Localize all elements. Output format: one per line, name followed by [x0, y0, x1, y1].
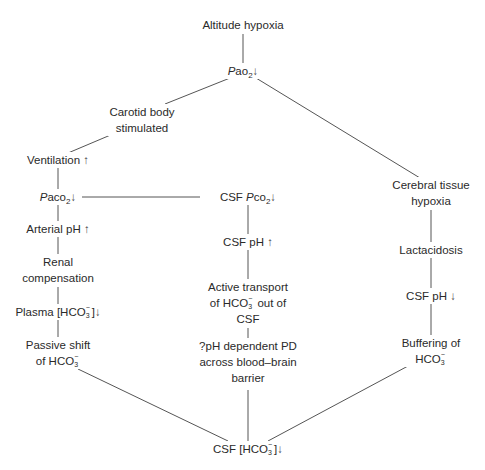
node-renal-compensation: Renal compensation [20, 254, 96, 286]
label: Arterial pH [26, 223, 80, 235]
node-cerebral-tissue-hypoxia: Cerebral tissue hypoxia [390, 177, 471, 209]
node-ph-dependent-pd: ?pH dependent PD across blood–brain barr… [197, 338, 299, 386]
ion-notation: −3 [86, 308, 92, 318]
ion-notation: −3 [74, 357, 80, 367]
down-arrow-icon: ↓ [277, 443, 283, 455]
label-line2: of HCO−3 [26, 353, 91, 369]
label: Altitude hypoxia [202, 19, 283, 31]
node-carotid-body: Carotid body stimulated [107, 104, 176, 136]
up-arrow-icon: ↑ [84, 223, 90, 235]
label-line3: barrier [199, 370, 297, 386]
down-arrow-icon: ↓ [253, 65, 259, 77]
charge: − [248, 295, 252, 303]
down-arrow-icon: ↓ [450, 290, 456, 302]
label-line1: Carotid body [109, 104, 174, 120]
label-prefix: P [246, 191, 254, 203]
node-pao2: Pao2↓ [226, 63, 261, 79]
label-main: ao [235, 65, 248, 77]
label-part: Plasma [HCO [15, 306, 85, 318]
charge: − [441, 351, 445, 359]
label-part: of HCO [36, 355, 74, 367]
node-buffering: Buffering of HCO−3 [400, 335, 463, 367]
label-line2: stimulated [109, 120, 174, 136]
label-line1: Renal [22, 254, 94, 270]
up-arrow-icon: ↑ [267, 236, 273, 248]
node-lactacidosis: Lactacidosis [397, 242, 464, 258]
label-line1: Passive shift [26, 337, 91, 353]
node-paco2: Paco2↓ [38, 189, 78, 205]
charge: − [268, 441, 272, 449]
node-ventilation: Ventilation ↑ [25, 152, 91, 168]
label-line2: compensation [22, 270, 94, 286]
label-line2: HCO−3 [402, 351, 461, 367]
node-active-transport: Active transport of HCO−3 out of CSF [206, 279, 290, 327]
charge: − [74, 353, 78, 361]
node-passive-shift: Passive shift of HCO−3 [24, 337, 93, 369]
subscript: 3 [268, 449, 272, 457]
ion-notation: −3 [268, 445, 274, 455]
charge: − [86, 304, 90, 312]
up-arrow-icon: ↑ [83, 154, 89, 166]
label: CSF pH [223, 236, 264, 248]
label-line3: CSF [208, 311, 288, 327]
label-main: aco [47, 191, 66, 203]
label-part: HCO [415, 353, 441, 365]
label-part: out of [254, 297, 286, 309]
label-line2: hypoxia [392, 193, 469, 209]
subscript: 3 [74, 361, 78, 369]
node-csf-hco3: CSF [HCO−3]↓ [211, 441, 285, 457]
ion-notation: −3 [248, 299, 254, 309]
label-line1: Cerebral tissue [392, 177, 469, 193]
down-arrow-icon: ↓ [270, 191, 276, 203]
label: Lactacidosis [399, 244, 462, 256]
label-main: co [254, 191, 266, 203]
down-arrow-icon: ↓ [95, 306, 101, 318]
label-prefix: P [228, 65, 236, 77]
label-line1: Buffering of [402, 335, 461, 351]
label-part: CSF [HCO [213, 443, 268, 455]
node-altitude-hypoxia: Altitude hypoxia [200, 17, 285, 33]
node-csf-ph-up: CSF pH ↑ [221, 234, 275, 250]
label-prefix: P [40, 191, 48, 203]
subscript: 3 [248, 303, 252, 311]
label: CSF pH [406, 290, 447, 302]
label-line1: Active transport [208, 279, 288, 295]
label-line2: of HCO−3 out of [208, 295, 288, 311]
down-arrow-icon: ↓ [70, 191, 76, 203]
subscript: 3 [86, 312, 90, 320]
label: Ventilation [27, 154, 80, 166]
label-line2: across blood–brain [199, 354, 297, 370]
node-csf-pco2: CSF Pco2↓ [218, 189, 278, 205]
label-part: of HCO [210, 297, 248, 309]
node-csf-ph-down: CSF pH ↓ [404, 288, 458, 304]
subscript: 3 [441, 359, 445, 367]
label: CSF [220, 191, 246, 203]
node-arterial-ph: Arterial pH ↑ [24, 221, 91, 237]
node-plasma-hco3: Plasma [HCO−3]↓ [13, 304, 102, 320]
label-line1: ?pH dependent PD [199, 338, 297, 354]
ion-notation: −3 [441, 355, 447, 365]
